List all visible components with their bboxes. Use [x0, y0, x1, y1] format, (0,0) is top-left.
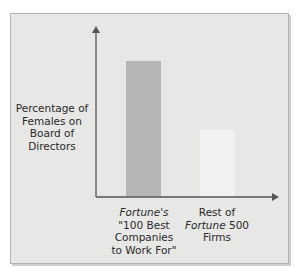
x-tick-label-0-line-3: to Work For" — [108, 244, 180, 257]
y-axis-label: Percentage of Females on Board of Direct… — [12, 102, 92, 152]
x-tick-label-1-line-1: Fortune 500 — [180, 219, 254, 232]
x-tick-label-0-line-2: Companies — [108, 231, 180, 244]
x-tick-label-1-line-0: Rest of — [180, 206, 254, 219]
y-axis-arrow — [92, 26, 100, 33]
x-axis-arrow — [272, 193, 279, 201]
x-tick-label-1: Rest of Fortune 500 Firms — [180, 206, 254, 244]
x-tick-label-0-line-0: Fortune's — [108, 206, 180, 219]
bar-0 — [126, 61, 161, 197]
x-tick-label-0: Fortune's "100 Best Companies to Work Fo… — [108, 206, 180, 256]
x-tick-label-0-line-1: "100 Best — [108, 219, 180, 232]
x-tick-label-1-line-2: Firms — [180, 231, 254, 244]
italic-word: Fortune — [185, 219, 226, 231]
bar-1 — [200, 130, 235, 197]
